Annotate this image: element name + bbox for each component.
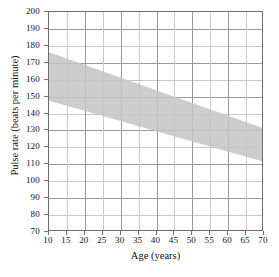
x-tick-mark	[156, 231, 157, 235]
y-tick-label: 160	[26, 74, 40, 83]
x-tick-mark	[84, 231, 85, 235]
target-zone-polygon	[49, 12, 262, 230]
x-tick-label: 25	[97, 236, 106, 245]
x-tick-label: 20	[79, 236, 88, 245]
x-tick-label: 10	[43, 236, 52, 245]
y-tick-label: 120	[26, 142, 40, 151]
pulse-rate-chart: Pulse rate (beats per minute) 7080901001…	[0, 0, 279, 277]
x-tick-mark	[48, 231, 49, 235]
x-tick-label: 35	[133, 236, 142, 245]
x-tick-label: 15	[61, 236, 70, 245]
y-tick-label: 170	[26, 57, 40, 66]
x-tick-label: 60	[222, 236, 231, 245]
y-tick-label: 180	[26, 40, 40, 49]
x-tick-mark	[263, 231, 264, 235]
y-axis: 708090100110120130140150160170180190200	[0, 0, 48, 242]
x-tick-mark	[191, 231, 192, 235]
plot-area	[48, 11, 263, 231]
x-tick-mark	[120, 231, 121, 235]
x-tick-mark	[227, 231, 228, 235]
x-tick-label: 55	[205, 236, 214, 245]
x-axis-title: Age (years)	[48, 250, 263, 261]
target-zone-band	[49, 12, 262, 230]
y-tick-label: 90	[31, 193, 40, 202]
band-polygon	[49, 52, 262, 161]
y-tick-label: 140	[26, 108, 40, 117]
y-tick-label: 80	[31, 210, 40, 219]
x-tick-mark	[138, 231, 139, 235]
x-tick-mark	[209, 231, 210, 235]
y-tick-label: 130	[26, 125, 40, 134]
y-tick-label: 200	[26, 7, 40, 16]
x-tick-mark	[173, 231, 174, 235]
x-tick-label: 65	[240, 236, 249, 245]
x-tick-label: 50	[187, 236, 196, 245]
x-tick-mark	[102, 231, 103, 235]
y-tick-label: 190	[26, 23, 40, 32]
x-tick-mark	[66, 231, 67, 235]
y-tick-label: 100	[26, 176, 40, 185]
x-tick-label: 45	[169, 236, 178, 245]
y-tick-label: 150	[26, 91, 40, 100]
x-tick-label: 70	[258, 236, 267, 245]
x-tick-mark	[245, 231, 246, 235]
y-tick-label: 110	[26, 159, 40, 168]
x-axis: 10152025303540455055606570	[0, 231, 279, 251]
x-tick-label: 30	[115, 236, 124, 245]
x-tick-label: 40	[151, 236, 160, 245]
